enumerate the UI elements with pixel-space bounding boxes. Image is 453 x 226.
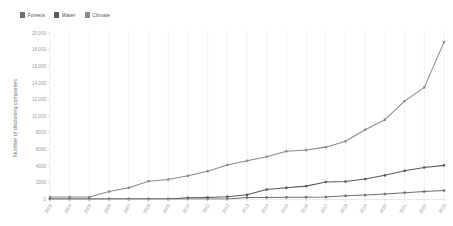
- series-marker-forests: [167, 198, 169, 200]
- series-marker-climate: [443, 41, 445, 43]
- series-marker-water: [423, 166, 425, 168]
- x-tick-label: 2012: [221, 203, 231, 215]
- series-marker-forests: [443, 189, 445, 191]
- x-tick-label: 2013: [241, 203, 251, 215]
- series-marker-water: [266, 188, 268, 190]
- x-tick-label: 2004: [63, 203, 73, 215]
- x-tick-label: 2017: [319, 203, 329, 215]
- series-marker-water: [305, 185, 307, 187]
- x-tick-label: 2007: [122, 203, 132, 215]
- x-tick-label: 2018: [339, 203, 349, 215]
- y-tick-label: 12,000: [32, 97, 46, 102]
- series-marker-forests: [403, 192, 405, 194]
- series-marker-forests: [285, 196, 287, 198]
- x-tick-label: 2010: [182, 203, 192, 215]
- chart-root: Forests Water Climate 020004000600080001…: [0, 0, 453, 226]
- y-tick-label: 8000: [36, 130, 47, 135]
- series-marker-forests: [364, 194, 366, 196]
- series-marker-forests: [108, 198, 110, 200]
- series-marker-forests: [206, 198, 208, 200]
- series-marker-water: [226, 196, 228, 198]
- series-marker-water: [325, 181, 327, 183]
- series-marker-climate: [266, 156, 268, 158]
- series-marker-climate: [344, 140, 346, 142]
- series-marker-climate: [147, 180, 149, 182]
- series-marker-water: [403, 170, 405, 172]
- series-marker-water: [246, 194, 248, 196]
- series-marker-climate: [187, 175, 189, 177]
- x-tick-label: 2015: [280, 203, 290, 215]
- series-marker-climate: [305, 149, 307, 151]
- x-axis-ticks: 2003200420052006200720082009201020112012…: [44, 199, 448, 214]
- series-marker-forests: [423, 190, 425, 192]
- y-tick-label: 18,000: [32, 47, 46, 52]
- series-marker-climate: [108, 190, 110, 192]
- x-tick-label: 2022: [418, 203, 428, 215]
- series-marker-climate: [246, 160, 248, 162]
- series-marker-forests: [325, 196, 327, 198]
- x-tick-label: 2003: [44, 203, 54, 215]
- x-tick-label: 2020: [379, 203, 389, 215]
- x-tick-label: 2014: [260, 203, 270, 215]
- series-marker-climate: [364, 129, 366, 131]
- series-marker-climate: [167, 178, 169, 180]
- series-marker-forests: [305, 196, 307, 198]
- series-marker-climate: [128, 187, 130, 189]
- series-marker-forests: [344, 195, 346, 197]
- series-marker-forests: [266, 196, 268, 198]
- x-tick-label: 2019: [359, 203, 369, 215]
- series-marker-forests: [384, 193, 386, 195]
- series-marker-forests: [187, 198, 189, 200]
- series-marker-climate: [325, 146, 327, 148]
- series-marker-forests: [128, 198, 130, 200]
- chart-canvas: 0200040006000800010,00012,00014,00016,00…: [0, 0, 453, 226]
- x-tick-label: 2006: [103, 203, 113, 215]
- y-tick-label: 16,000: [32, 64, 46, 69]
- series-marker-water: [344, 180, 346, 182]
- x-tick-label: 2023: [438, 203, 448, 215]
- series-marker-water: [443, 164, 445, 166]
- series-marker-water: [384, 174, 386, 176]
- x-tick-label: 2009: [162, 203, 172, 215]
- line-chart-svg: 0200040006000800010,00012,00014,00016,00…: [0, 0, 453, 226]
- y-axis-ticks: 0200040006000800010,00012,00014,00016,00…: [32, 31, 50, 202]
- series-marker-water: [285, 187, 287, 189]
- series-marker-forests: [226, 198, 228, 200]
- series-marker-climate: [423, 86, 425, 88]
- y-tick-label: 20,000: [32, 31, 46, 36]
- series-marker-climate: [384, 119, 386, 121]
- series-marker-climate: [285, 150, 287, 152]
- series-marker-climate: [226, 164, 228, 166]
- y-axis-label: Number of disclosing companies: [12, 79, 18, 157]
- series-marker-climate: [403, 100, 405, 102]
- y-tick-label: 6000: [36, 147, 47, 152]
- series-marker-forests: [69, 198, 71, 200]
- series-marker-forests: [49, 198, 51, 200]
- y-tick-label: 0: [43, 197, 46, 202]
- x-tick-label: 2008: [142, 203, 152, 215]
- x-tick-label: 2021: [398, 203, 408, 215]
- y-tick-label: 4000: [36, 164, 47, 169]
- gridlines: [50, 30, 444, 199]
- series-marker-water: [364, 178, 366, 180]
- series-marker-climate: [69, 196, 71, 198]
- series-marker-forests: [88, 198, 90, 200]
- series-marker-forests: [147, 198, 149, 200]
- x-tick-label: 2005: [83, 203, 93, 215]
- y-tick-label: 2000: [36, 180, 47, 185]
- x-tick-label: 2011: [201, 203, 210, 214]
- series-marker-forests: [246, 196, 248, 198]
- series-marker-climate: [206, 170, 208, 172]
- y-tick-label: 10,000: [32, 114, 46, 119]
- y-tick-label: 14,000: [32, 81, 46, 86]
- x-tick-label: 2016: [300, 203, 310, 215]
